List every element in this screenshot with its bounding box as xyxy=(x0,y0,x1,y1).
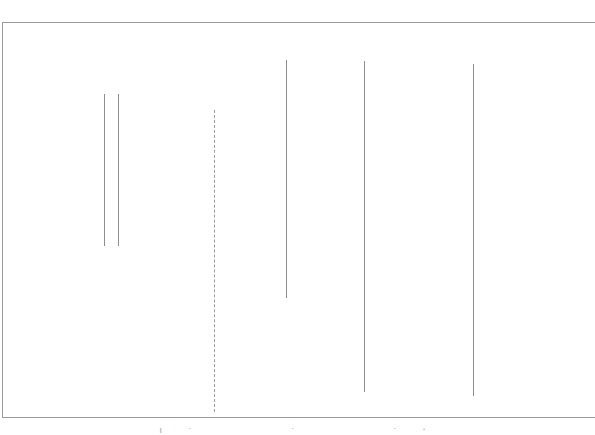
vertical-line-seg-4 xyxy=(286,60,287,298)
vertical-line-seg-1 xyxy=(104,94,105,246)
vertical-line-seg-2 xyxy=(118,94,119,246)
clipped-caption-text: | +----- + ---- + . xyxy=(0,428,595,433)
plot-area xyxy=(0,0,595,435)
clipped-caption-row: | +----- + ---- + . xyxy=(0,428,595,435)
vertical-line-seg-3 xyxy=(214,110,215,412)
vertical-line-seg-5 xyxy=(364,61,365,392)
figure-canvas: | +----- + ---- + . xyxy=(0,0,595,435)
vertical-line-seg-6 xyxy=(473,64,474,396)
